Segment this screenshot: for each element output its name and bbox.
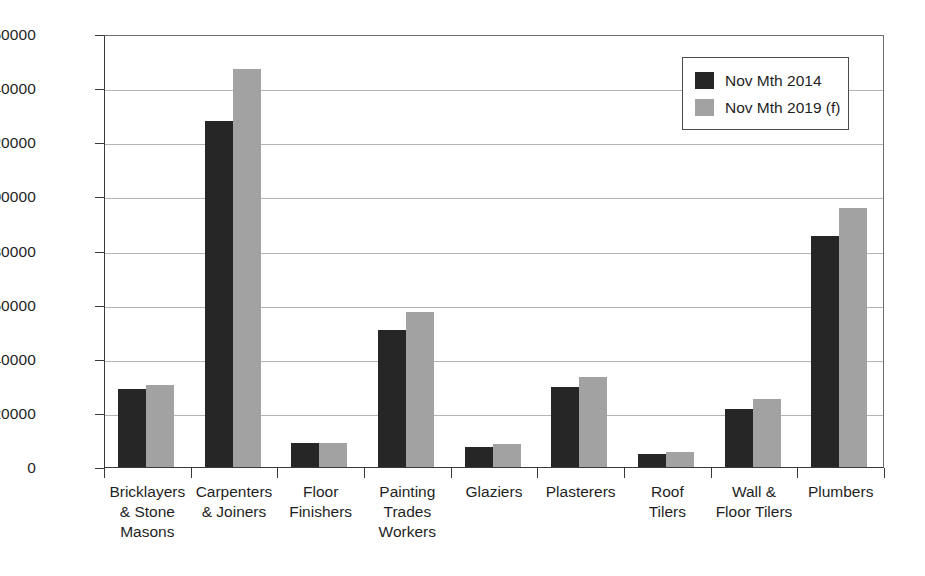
y-tick-label: 80000 [0, 243, 36, 261]
bar-series-2019 [839, 208, 867, 467]
y-tick-mark [95, 414, 104, 415]
bar-group [365, 36, 452, 467]
legend-swatch-2014 [695, 72, 714, 89]
x-tick-mark [364, 468, 365, 478]
y-tick-label: 40000 [0, 351, 36, 369]
legend-item-0: Nov Mth 2014 [695, 67, 848, 94]
bar-series-2019 [753, 399, 781, 467]
x-tick-mark [711, 468, 712, 478]
x-axis-label: Bricklayers & Stone Masons [104, 482, 191, 542]
bar-chart: 0200004000060000800001000001200001400001… [0, 0, 925, 576]
bar-series-2014 [638, 454, 666, 467]
y-tick-mark [95, 468, 104, 469]
y-tick-label: 140000 [0, 80, 36, 98]
bar-series-2014 [811, 236, 839, 467]
legend-swatch-2019 [695, 99, 714, 116]
bar-series-2014 [725, 409, 753, 467]
legend-item-1: Nov Mth 2019 (f) [695, 94, 848, 121]
x-axis-label: Plasterers [537, 482, 624, 502]
bar-group [278, 36, 365, 467]
y-tick-mark [95, 35, 104, 36]
x-tick-mark [277, 468, 278, 478]
x-axis-label: Roof Tilers [624, 482, 711, 522]
y-tick-mark [95, 360, 104, 361]
bar-series-2014 [465, 447, 493, 467]
bar-series-2019 [579, 377, 607, 467]
bar-group [452, 36, 539, 467]
x-axis-label: Floor Finishers [277, 482, 364, 522]
bar-series-2019 [493, 444, 521, 467]
bar-series-2019 [406, 312, 434, 467]
bar-series-2014 [378, 330, 406, 467]
bar-series-2014 [291, 443, 319, 467]
x-tick-mark [797, 468, 798, 478]
bar-group [192, 36, 279, 467]
legend-label-2014: Nov Mth 2014 [725, 72, 822, 90]
x-axis-label: Glaziers [451, 482, 538, 502]
bar-series-2014 [118, 389, 146, 467]
bar-series-2019 [319, 443, 347, 467]
x-tick-mark [191, 468, 192, 478]
y-tick-mark [95, 143, 104, 144]
y-tick-label: 120000 [0, 134, 36, 152]
x-tick-mark [624, 468, 625, 478]
bar-series-2019 [666, 452, 694, 467]
bar-series-2019 [146, 385, 174, 467]
bar-series-2014 [205, 121, 233, 467]
y-tick-mark [95, 252, 104, 253]
x-axis-label: Plumbers [797, 482, 884, 502]
y-tick-label: 100000 [0, 188, 36, 206]
x-axis-label: Wall & Floor Tilers [711, 482, 798, 522]
legend-label-2019: Nov Mth 2019 (f) [725, 99, 840, 117]
y-tick-mark [95, 89, 104, 90]
y-tick-mark [95, 197, 104, 198]
y-tick-label: 60000 [0, 297, 36, 315]
y-tick-label: 20000 [0, 405, 36, 423]
x-axis-label: Painting Trades Workers [364, 482, 451, 542]
x-tick-mark [537, 468, 538, 478]
y-tick-label: 0 [27, 459, 36, 477]
bar-group [105, 36, 192, 467]
x-axis-label: Carpenters & Joiners [191, 482, 278, 522]
x-tick-mark [104, 468, 105, 478]
x-tick-mark [451, 468, 452, 478]
y-tick-label: 160000 [0, 26, 36, 44]
bar-series-2014 [551, 387, 579, 467]
y-tick-mark [95, 306, 104, 307]
bar-group [538, 36, 625, 467]
x-tick-mark [884, 468, 885, 478]
chart-legend: Nov Mth 2014 Nov Mth 2019 (f) [682, 57, 849, 130]
bar-series-2019 [233, 69, 261, 467]
